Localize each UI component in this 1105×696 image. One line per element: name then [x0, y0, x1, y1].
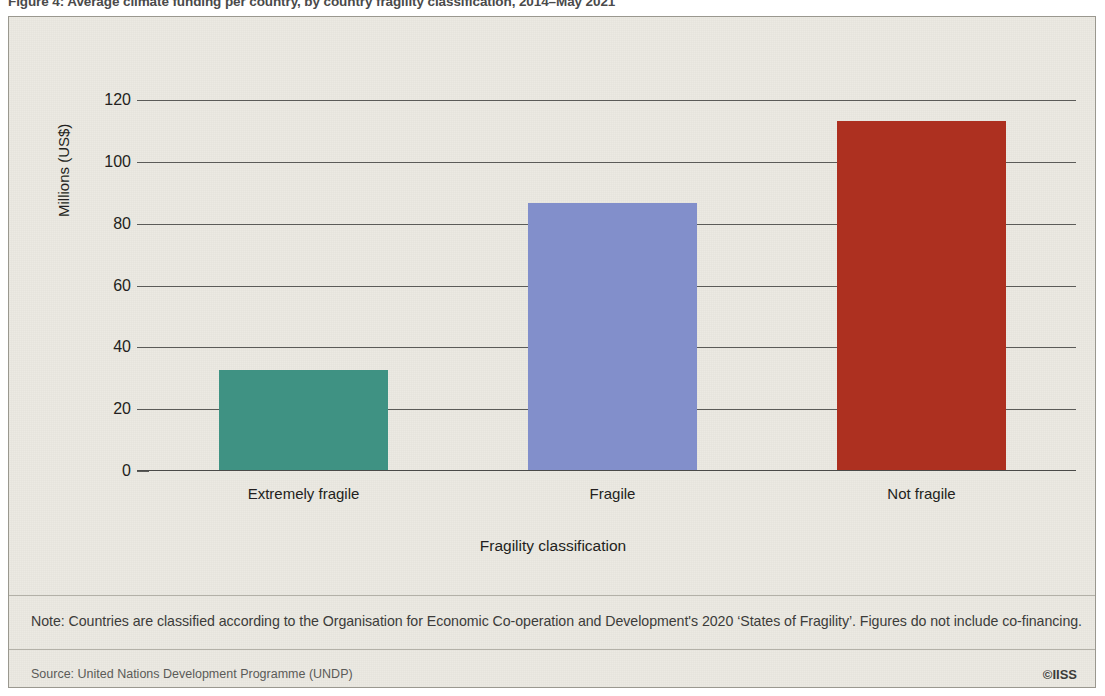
figure-source: Source: United Nations Development Progr… — [31, 667, 353, 681]
y-tick-label: 100 — [104, 153, 131, 171]
y-tick-100 — [137, 162, 149, 163]
x-tick-label: Extremely fragile — [248, 485, 360, 502]
y-tick-40 — [137, 347, 149, 348]
y-axis-title: Millions (US$) — [55, 124, 72, 217]
y-tick-label: 40 — [113, 338, 131, 356]
x-tick-label: Not fragile — [887, 485, 955, 502]
y-tick-60 — [137, 286, 149, 287]
y-tick-80 — [137, 224, 149, 225]
y-tick-label: 0 — [122, 462, 131, 480]
figure-page: Figure 4: Average climate funding per co… — [0, 0, 1105, 696]
y-tick-label: 120 — [104, 91, 131, 109]
bar-not-fragile — [837, 121, 1005, 470]
note-divider-bottom — [9, 649, 1095, 650]
y-tick-label: 20 — [113, 400, 131, 418]
iiss-logo: ©IISS — [1043, 667, 1077, 682]
bar-extremely-fragile — [219, 370, 387, 470]
gridline-120 — [149, 100, 1076, 101]
y-tick-120 — [137, 100, 149, 101]
y-tick-0 — [137, 471, 149, 472]
figure-caption: Figure 4: Average climate funding per co… — [8, 0, 1098, 14]
x-axis-baseline — [137, 470, 1076, 471]
y-tick-label: 80 — [113, 215, 131, 233]
bar-chart-plot-area: 020406080100120Extremely fragileFragileN… — [149, 100, 1076, 471]
figure-frame: Millions (US$) 020406080100120Extremely … — [8, 16, 1096, 688]
figure-note: Note: Countries are classified according… — [31, 613, 1081, 629]
note-divider-top — [9, 595, 1095, 596]
y-tick-20 — [137, 409, 149, 410]
bar-fragile — [528, 203, 696, 470]
x-tick-label: Fragile — [590, 485, 636, 502]
x-axis-title: Fragility classification — [9, 537, 1097, 555]
y-tick-label: 60 — [113, 277, 131, 295]
